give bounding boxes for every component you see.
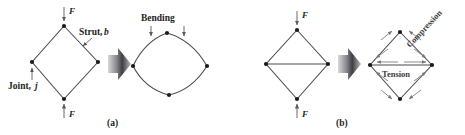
stressed-joint-bottom — [398, 97, 402, 101]
force-label-bottom: F — [68, 109, 75, 119]
undeformed-pin-jointed-diamond: F F Strut, b Joint, j — [8, 6, 109, 119]
panel-a: F F Strut, b Joint, j — [8, 6, 209, 129]
joint-label: Joint, — [8, 81, 32, 91]
braced-joint-right — [326, 62, 330, 66]
joint-node-left — [30, 60, 34, 64]
force-label-top: F — [68, 6, 75, 16]
force-label-bottom-b: F — [301, 109, 308, 119]
figure-root: F F Strut, b Joint, j — [0, 0, 465, 135]
deformed-joint-right — [205, 64, 209, 68]
stressed-braced-diamond: Compression Tension — [368, 8, 444, 102]
stressed-joint-left — [368, 63, 372, 67]
panel-b: F F — [264, 8, 444, 129]
compression-arrows-top-left — [376, 31, 392, 58]
panel-b-caption: (b) — [336, 118, 348, 129]
deformed-joint-left — [131, 64, 135, 68]
transition-arrow-b — [338, 48, 361, 80]
braced-joint-left — [264, 62, 268, 66]
strut-leader-line — [83, 38, 92, 46]
bent-strut-top-right — [167, 33, 207, 66]
stressed-joint-right — [430, 63, 434, 67]
braced-diamond: F F — [264, 10, 330, 119]
joint-label-symbol: j — [33, 81, 38, 91]
joint-node-top — [62, 24, 66, 28]
deformed-bending-diamond: Bending — [131, 13, 209, 97]
tension-label: Tension — [382, 69, 410, 79]
compression-arrows-bottom-right — [409, 72, 426, 99]
strut-label: Strut, — [79, 27, 103, 37]
braced-joint-bottom — [295, 97, 299, 101]
compression-label: Compression — [404, 8, 444, 50]
strut-label-symbol: b — [104, 27, 109, 37]
joint-node-bottom — [62, 97, 66, 101]
braced-joint-top — [295, 28, 299, 32]
bending-label: Bending — [141, 13, 175, 23]
transition-arrow-a — [108, 48, 131, 80]
panel-a-caption: (a) — [107, 118, 118, 129]
bent-strut-bottom-left — [133, 66, 169, 95]
joint-node-right — [96, 60, 100, 64]
deformed-joint-bottom — [167, 93, 171, 97]
bent-strut-top-left — [133, 33, 167, 66]
force-label-top-b: F — [301, 10, 308, 20]
stressed-joint-top — [398, 30, 402, 34]
figure-canvas: F F Strut, b Joint, j — [0, 0, 465, 135]
bent-strut-bottom-right — [169, 66, 207, 95]
deformed-joint-top — [165, 31, 169, 35]
